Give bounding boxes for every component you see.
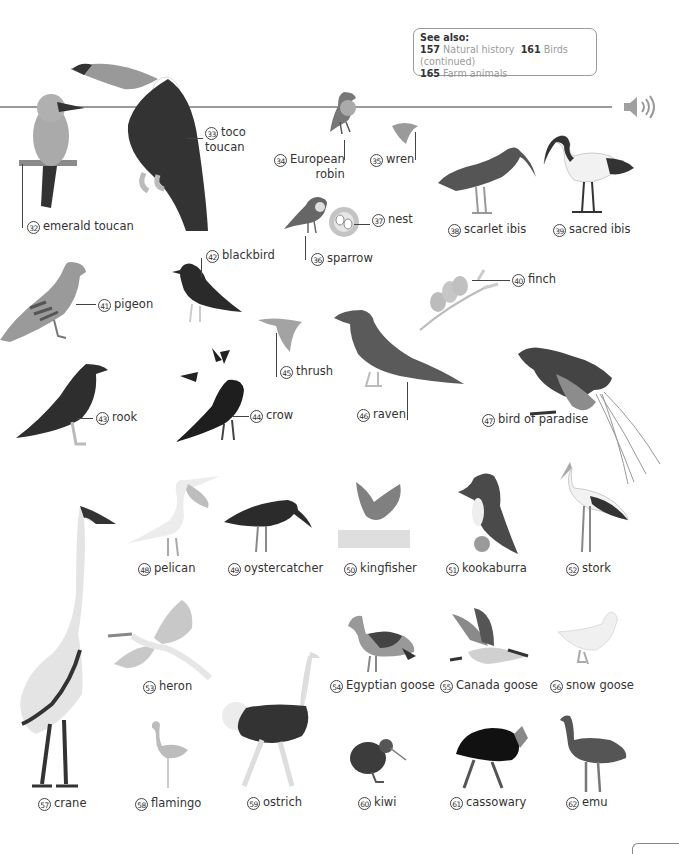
- item-name: pigeon: [114, 297, 153, 311]
- leader-line: [76, 304, 96, 305]
- item-name: snow goose: [566, 678, 634, 692]
- item-name: kingfisher: [360, 561, 417, 575]
- sacred-ibis-illustration: [540, 130, 636, 216]
- label-crow: 44crow: [250, 408, 293, 423]
- item-name: blackbird: [222, 248, 275, 262]
- sparrow-illustration: [282, 193, 332, 235]
- item-name: heron: [159, 679, 192, 693]
- item-name: robin: [277, 167, 344, 181]
- item-name: crane: [54, 796, 86, 810]
- kiwi-illustration: [348, 734, 408, 786]
- item-name: scarlet ibis: [464, 222, 526, 236]
- leader-line: [22, 164, 23, 228]
- item-name: raven: [373, 407, 406, 421]
- label-flamingo: 58flamingo: [135, 796, 201, 811]
- leader-line: [305, 236, 306, 260]
- label-bird-of-paradise: 47bird of paradise: [482, 412, 588, 427]
- item-name: sacred ibis: [569, 222, 631, 236]
- item-number: 40: [512, 274, 525, 287]
- blackbird-illustration: [170, 260, 246, 324]
- label-egyptian-goose: 54Egyptian goose: [330, 678, 435, 693]
- toco-toucan-illustration: [68, 55, 218, 235]
- label-sacred-ibis: 39sacred ibis: [553, 222, 631, 237]
- leader-line: [187, 138, 203, 139]
- item-number: 46: [357, 409, 370, 422]
- label-thrush: 45thrush: [280, 364, 333, 379]
- item-number: 57: [38, 798, 51, 811]
- item-number: 44: [250, 410, 263, 423]
- label-raven: 46raven: [357, 407, 406, 422]
- see-also-link[interactable]: 165 Farm animals: [420, 68, 507, 79]
- item-number: 42: [206, 250, 219, 263]
- item-name: pelican: [154, 561, 195, 575]
- item-number: 36: [311, 253, 324, 266]
- heron-illustration: [106, 598, 216, 680]
- item-number: 56: [550, 680, 563, 693]
- crane-illustration: [12, 504, 122, 794]
- leader-line: [201, 258, 202, 278]
- label-rook: 43rook: [96, 410, 137, 425]
- label-crane: 57crane: [38, 796, 86, 811]
- label-emu: 62emu: [566, 795, 608, 810]
- item-name: ostrich: [263, 795, 302, 809]
- item-number: 47: [482, 414, 495, 427]
- item-number: 41: [98, 299, 111, 312]
- item-number: 50: [344, 563, 357, 576]
- item-name: toco: [221, 125, 246, 139]
- label-nest: 37nest: [372, 212, 413, 227]
- item-number: 34: [274, 154, 287, 167]
- item-name: wren: [386, 152, 414, 166]
- speaker-icon[interactable]: [622, 94, 660, 120]
- item-name: rook: [112, 410, 137, 424]
- kookaburra-illustration: [456, 470, 522, 556]
- label-toco-toucan: 33toco toucan: [205, 125, 246, 154]
- item-number: 33: [205, 127, 218, 140]
- flamingo-illustration: [146, 718, 190, 790]
- leader-line: [354, 224, 370, 225]
- item-number: 52: [566, 563, 579, 576]
- label-kingfisher: 50kingfisher: [344, 561, 417, 576]
- item-name: kookaburra: [462, 561, 527, 575]
- item-number: 58: [135, 798, 148, 811]
- european-robin-illustration: [320, 88, 360, 138]
- label-scarlet-ibis: 38scarlet ibis: [448, 222, 526, 237]
- item-name: thrush: [296, 364, 333, 378]
- label-pigeon: 41pigeon: [98, 297, 153, 312]
- item-name: Egyptian goose: [346, 678, 435, 692]
- snow-goose-illustration: [556, 606, 622, 668]
- leader-line: [472, 280, 510, 281]
- stork-illustration: [558, 460, 632, 556]
- item-number: 55: [440, 680, 453, 693]
- leader-line: [233, 416, 249, 417]
- item-number: 37: [372, 214, 385, 227]
- see-also-box: See also: 157 Natural history 161 Birds …: [413, 28, 597, 76]
- label-ostrich: 59ostrich: [247, 795, 302, 810]
- item-number: 32: [27, 221, 40, 234]
- label-emerald-toucan: 32emerald toucan: [27, 219, 134, 234]
- item-name: finch: [528, 272, 556, 286]
- item-number: 38: [448, 224, 461, 237]
- label-snow-goose: 56snow goose: [550, 678, 634, 693]
- item-name: Canada goose: [456, 678, 538, 692]
- item-number: 45: [280, 366, 293, 379]
- item-number: 59: [247, 797, 260, 810]
- label-kookaburra: 51kookaburra: [446, 561, 527, 576]
- item-name: sparrow: [327, 251, 373, 265]
- item-number: 62: [566, 797, 579, 810]
- kingfisher-illustration: [336, 480, 412, 550]
- see-also-link[interactable]: 157 Natural history: [420, 44, 515, 55]
- label-finch: 40finch: [512, 272, 556, 287]
- page-corner-tab: [632, 843, 679, 854]
- label-stork: 52stork: [566, 561, 611, 576]
- label-kiwi: 60kiwi: [358, 795, 396, 810]
- item-number: 48: [138, 563, 151, 576]
- item-name: cassowary: [466, 795, 526, 809]
- label-wren: 35wren: [370, 152, 414, 167]
- pigeon-illustration: [0, 258, 90, 348]
- raven-illustration: [332, 308, 466, 394]
- oystercatcher-illustration: [222, 498, 312, 556]
- item-number: 53: [143, 681, 156, 694]
- label-canada-goose: 55Canada goose: [440, 678, 538, 693]
- ostrich-illustration: [222, 650, 322, 790]
